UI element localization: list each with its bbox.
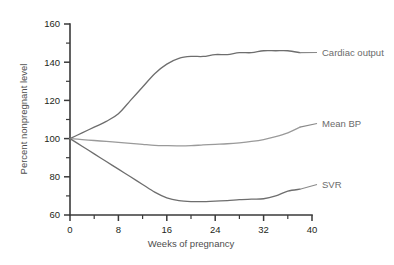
series-curves [70, 51, 300, 202]
y-tick-label: 140 [44, 57, 60, 68]
x-axis-title: Weeks of pregnancy [148, 238, 235, 249]
y-axis: 6080100120140160 [44, 18, 70, 220]
x-axis: 0816243240 [67, 215, 317, 235]
y-tick-label: 160 [44, 18, 60, 29]
x-tick-label: 32 [258, 224, 269, 235]
y-axis-tick-labels: 6080100120140160 [44, 18, 60, 220]
leader-line-svr [300, 185, 317, 190]
line-chart-canvas: 6080100120140160 0816243240 Cardiac outp… [0, 0, 394, 265]
y-tick-label: 120 [44, 95, 60, 106]
x-axis-tick-labels: 0816243240 [67, 224, 317, 235]
y-axis-title: Percent nonpregnant level [18, 64, 29, 175]
chart-figure: 6080100120140160 0816243240 Cardiac outp… [0, 0, 394, 265]
x-tick-label: 0 [67, 224, 72, 235]
x-tick-label: 40 [307, 224, 318, 235]
series-label-cardiac-output: Cardiac output [322, 47, 384, 58]
series-label-mean-bp: Mean BP [322, 118, 361, 129]
series-label-leader-lines [300, 53, 317, 190]
curve-mean-bp [70, 127, 300, 146]
series-label-svr: SVR [322, 179, 342, 190]
y-tick-label: 80 [49, 171, 60, 182]
y-tick-label: 100 [44, 133, 60, 144]
x-tick-label: 8 [116, 224, 121, 235]
y-tick-label: 60 [49, 209, 60, 220]
leader-line-mean-bp [300, 124, 317, 128]
curve-svr [70, 139, 300, 202]
x-tick-label: 16 [162, 224, 173, 235]
curve-cardiac-output [70, 51, 300, 139]
x-tick-label: 24 [210, 224, 221, 235]
